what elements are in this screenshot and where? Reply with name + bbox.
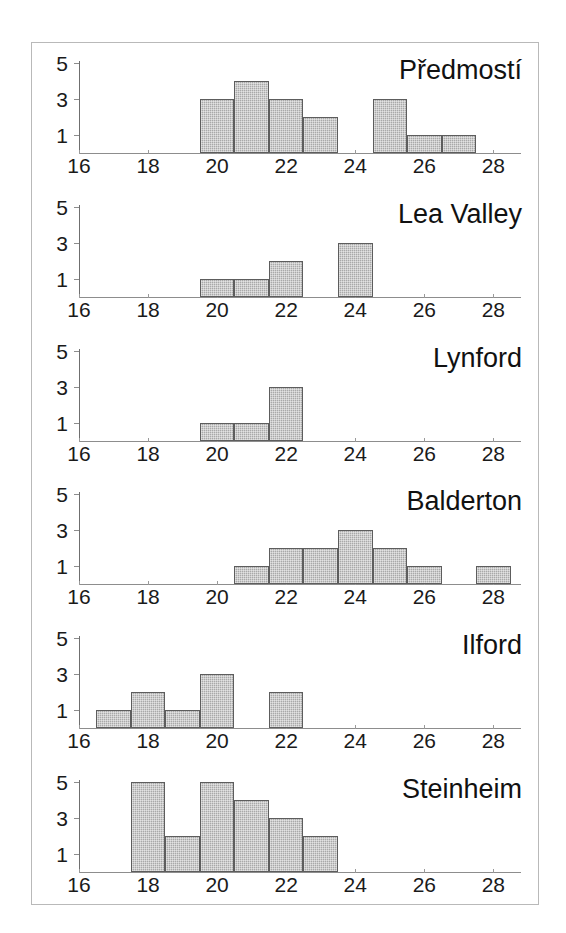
x-axis-tick [79,438,80,442]
plot-area: 13516182022242628Lea Valley [32,187,538,331]
histogram-bar [200,782,235,872]
y-axis-tick-label: 3 [32,807,72,828]
histogram-bar [234,423,269,441]
y-axis-tick-label: 1 [32,268,72,289]
histogram-bar [407,135,442,153]
x-axis-tick-label: 28 [471,155,515,177]
x-axis-tick-label: 22 [264,443,308,465]
x-axis-tick [424,438,425,442]
histogram-panel: 13516182022242628Ilford [32,618,538,762]
histogram-bar [303,548,338,584]
panel-title: Balderton [406,488,522,515]
histogram-bar [269,99,304,153]
x-axis-tick-label: 20 [195,730,239,752]
x-axis-tick-label: 28 [471,586,515,608]
y-axis-tick-label: 1 [32,700,72,721]
x-axis-tick-label: 24 [333,443,377,465]
x-axis-tick-label: 16 [57,586,101,608]
x-axis-tick-label: 24 [333,874,377,896]
y-axis-tick [74,351,79,352]
y-axis-line [79,349,80,441]
y-axis-tick-label: 5 [32,196,72,217]
x-axis-tick-label: 16 [57,443,101,465]
x-axis-tick-label: 16 [57,299,101,321]
y-axis-tick [74,135,79,136]
histogram-bar [338,243,373,297]
y-axis-tick [74,494,79,495]
x-axis-tick-label: 22 [264,874,308,896]
x-axis-tick-label: 28 [471,730,515,752]
histogram-bar [269,692,304,728]
histogram-bar [165,710,200,728]
x-axis-tick-label: 16 [57,730,101,752]
y-axis-tick-label: 1 [32,843,72,864]
x-axis-tick-label: 16 [57,874,101,896]
y-axis-line [79,205,80,297]
histogram-bar [338,530,373,584]
histogram-bar [269,387,304,441]
histogram-bar [407,566,442,584]
y-axis-line [79,780,80,872]
y-axis-tick [74,566,79,567]
y-axis-tick [74,63,79,64]
histogram-panel: 13516182022242628Balderton [32,474,538,618]
y-axis-tick [74,854,79,855]
histogram-bar [200,99,235,153]
y-axis-tick-label: 5 [32,771,72,792]
histogram-bar [200,279,235,297]
x-axis-tick-label: 26 [402,730,446,752]
histogram-bar [234,800,269,872]
panel-title: Steinheim [402,776,522,803]
x-axis-tick-label: 22 [264,155,308,177]
histogram-bar [234,81,269,153]
plot-area: 13516182022242628Předmostí [32,43,538,187]
x-axis-tick-label: 18 [126,730,170,752]
y-axis-tick-label: 5 [32,53,72,74]
histogram-panel: 13516182022242628Lea Valley [32,187,538,331]
histogram-bar [200,674,235,728]
y-axis-tick [74,207,79,208]
x-axis-tick-label: 26 [402,299,446,321]
x-axis-tick [355,438,356,442]
x-axis-tick-label: 22 [264,586,308,608]
x-axis-tick-label: 24 [333,299,377,321]
histogram-bar [373,548,408,584]
x-axis-tick-label: 16 [57,155,101,177]
x-axis-tick-label: 20 [195,586,239,608]
x-axis-tick-label: 18 [126,586,170,608]
y-axis-tick-label: 5 [32,340,72,361]
y-axis-line [79,492,80,584]
x-axis-tick-label: 20 [195,299,239,321]
x-axis-tick-label: 18 [126,443,170,465]
histogram-bar [373,99,408,153]
y-axis-tick-label: 1 [32,556,72,577]
histogram-bar [165,836,200,872]
y-axis-tick-label: 5 [32,628,72,649]
y-axis-tick-label: 1 [32,412,72,433]
histogram-bar [476,566,511,584]
y-axis-tick [74,710,79,711]
y-axis-tick-label: 3 [32,232,72,253]
panel-title: Lynford [433,345,522,372]
y-axis-line [79,61,80,153]
x-axis-tick-label: 24 [333,730,377,752]
y-axis-tick [74,782,79,783]
panel-title: Ilford [462,632,522,659]
x-axis-tick-label: 22 [264,299,308,321]
histogram-bar [269,818,304,872]
y-axis-tick [74,423,79,424]
x-axis-tick [493,438,494,442]
y-axis-tick [74,530,79,531]
x-axis-tick-label: 18 [126,299,170,321]
plot-area: 13516182022242628Balderton [32,474,538,618]
plot-area: 13516182022242628Ilford [32,618,538,762]
plot-area: 13516182022242628Steinheim [32,762,538,906]
x-axis-tick-label: 18 [126,874,170,896]
y-axis-tick-label: 5 [32,484,72,505]
y-axis-tick [74,818,79,819]
x-axis-tick-label: 28 [471,299,515,321]
x-axis-tick-label: 28 [471,874,515,896]
x-axis-tick-label: 26 [402,443,446,465]
x-axis-tick-label: 20 [195,443,239,465]
x-axis-tick-label: 24 [333,586,377,608]
